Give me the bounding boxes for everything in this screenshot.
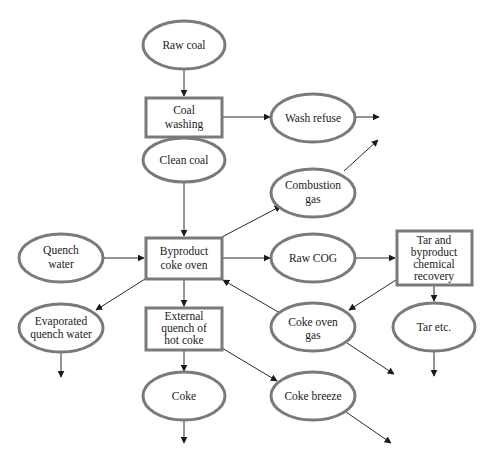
node-quench-water: Quench water bbox=[19, 234, 103, 282]
edge-oven-to-evaporated bbox=[96, 279, 145, 310]
node-label: Tar etc. bbox=[417, 321, 451, 333]
svg-text:gas: gas bbox=[305, 329, 321, 342]
edge-combustiongas-out bbox=[344, 140, 378, 171]
svg-text:Quench: Quench bbox=[43, 244, 79, 256]
node-label: Coke bbox=[172, 390, 196, 402]
node-label: External bbox=[165, 310, 204, 322]
svg-text:coke oven: coke oven bbox=[161, 259, 208, 271]
edge-cokeovengas-to-oven bbox=[223, 280, 280, 313]
svg-text:Coke breeze: Coke breeze bbox=[284, 390, 341, 402]
node-raw-cog: Raw COG bbox=[271, 234, 355, 282]
svg-text:Tar and: Tar and bbox=[417, 234, 452, 246]
node-coke-breeze: Coke breeze bbox=[271, 372, 355, 420]
svg-text:Evaporated: Evaporated bbox=[35, 315, 88, 328]
node-label: Coke breeze bbox=[284, 390, 341, 402]
node-tar-etc: Tar etc. bbox=[393, 303, 475, 351]
node-coke-oven-gas: Coke oven gas bbox=[271, 303, 355, 351]
svg-text:hot coke: hot coke bbox=[164, 334, 203, 346]
node-external-quench: External quench of hot coke bbox=[146, 308, 222, 350]
node-label: recovery bbox=[414, 270, 454, 283]
node-label: Coal bbox=[173, 104, 195, 116]
node-label: Coke oven bbox=[288, 316, 338, 328]
svg-text:Raw COG: Raw COG bbox=[289, 252, 337, 264]
node-combustion-gas: Combustion gas bbox=[271, 169, 355, 217]
svg-text:Byproduct: Byproduct bbox=[160, 245, 209, 258]
node-label: chemical bbox=[413, 258, 455, 270]
svg-text:Wash refuse: Wash refuse bbox=[285, 112, 341, 124]
svg-text:External: External bbox=[165, 310, 204, 322]
node-wash-refuse: Wash refuse bbox=[271, 94, 355, 142]
node-label: Tar and bbox=[417, 234, 452, 246]
edges bbox=[61, 70, 434, 443]
svg-text:Combustion: Combustion bbox=[285, 179, 341, 191]
svg-text:Coal: Coal bbox=[173, 104, 195, 116]
node-label: Byproduct bbox=[160, 245, 209, 258]
node-label: water bbox=[48, 258, 74, 270]
node-label: Raw coal bbox=[162, 39, 205, 51]
node-label: Quench bbox=[43, 244, 79, 256]
svg-text:chemical: chemical bbox=[413, 258, 455, 270]
svg-text:Coke: Coke bbox=[172, 390, 196, 402]
node-clean-coal: Clean coal bbox=[143, 138, 225, 182]
svg-text:washing: washing bbox=[165, 118, 204, 131]
edge-externalquench-to-cokebreeze bbox=[222, 348, 277, 381]
node-label: Clean coal bbox=[160, 154, 209, 166]
edge-cokebreeze-out bbox=[346, 412, 391, 443]
svg-text:water: water bbox=[48, 258, 74, 270]
edge-cokeovengas-out bbox=[347, 343, 394, 374]
svg-text:Tar etc.: Tar etc. bbox=[417, 321, 451, 333]
svg-text:quench water: quench water bbox=[30, 328, 92, 341]
node-label: gas bbox=[305, 193, 321, 206]
node-label: Evaporated bbox=[35, 315, 88, 328]
coke-production-flowchart: Raw coal Coal washing Wash refuse Clean … bbox=[0, 0, 493, 463]
svg-text:recovery: recovery bbox=[414, 270, 454, 283]
node-label: gas bbox=[305, 329, 321, 342]
edge-tarrecovery-to-cokeovengas bbox=[349, 280, 396, 310]
node-label: washing bbox=[165, 118, 204, 131]
node-coal-washing: Coal washing bbox=[146, 98, 222, 137]
svg-text:gas: gas bbox=[305, 193, 321, 206]
node-label: Combustion bbox=[285, 179, 341, 191]
node-label: Wash refuse bbox=[285, 112, 341, 124]
node-label: hot coke bbox=[164, 334, 203, 346]
svg-text:Clean coal: Clean coal bbox=[160, 154, 209, 166]
svg-text:Raw coal: Raw coal bbox=[162, 39, 205, 51]
edge-oven-to-combustiongas bbox=[222, 206, 281, 237]
node-coke: Coke bbox=[143, 372, 225, 420]
node-label: coke oven bbox=[161, 259, 208, 271]
node-evaporated-quench-water: Evaporated quench water bbox=[19, 304, 103, 352]
node-label: Raw COG bbox=[289, 252, 337, 264]
svg-text:Coke oven: Coke oven bbox=[288, 316, 338, 328]
node-raw-coal: Raw coal bbox=[143, 21, 225, 69]
node-byproduct-coke-oven: Byproduct coke oven bbox=[146, 238, 222, 279]
node-label: quench water bbox=[30, 328, 92, 341]
node-tar-byproduct-recovery: Tar and byproduct chemical recovery bbox=[397, 231, 472, 285]
